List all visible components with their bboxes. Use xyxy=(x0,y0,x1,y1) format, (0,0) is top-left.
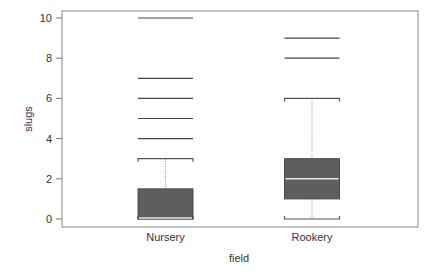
plot-frame xyxy=(62,11,418,227)
box-nursery xyxy=(138,18,193,219)
x-tick-label: Rookery xyxy=(292,231,333,243)
boxes xyxy=(138,18,340,219)
x-axis-label: field xyxy=(229,252,249,264)
boxplot-chart: 0246810 NurseryRookery slugs field xyxy=(0,0,437,274)
y-tick-label: 8 xyxy=(46,52,52,64)
y-axis-label: slugs xyxy=(22,106,34,132)
y-tick-label: 10 xyxy=(40,12,52,24)
iqr-box xyxy=(138,189,193,219)
y-tick-label: 6 xyxy=(46,92,52,104)
box-rookery xyxy=(285,38,340,219)
x-axis-labels: NurseryRookery xyxy=(146,231,333,243)
y-tick-label: 4 xyxy=(46,133,52,145)
y-axis: 0246810 xyxy=(40,12,62,225)
x-tick-label: Nursery xyxy=(146,231,185,243)
y-tick-label: 2 xyxy=(46,173,52,185)
y-tick-label: 0 xyxy=(46,213,52,225)
